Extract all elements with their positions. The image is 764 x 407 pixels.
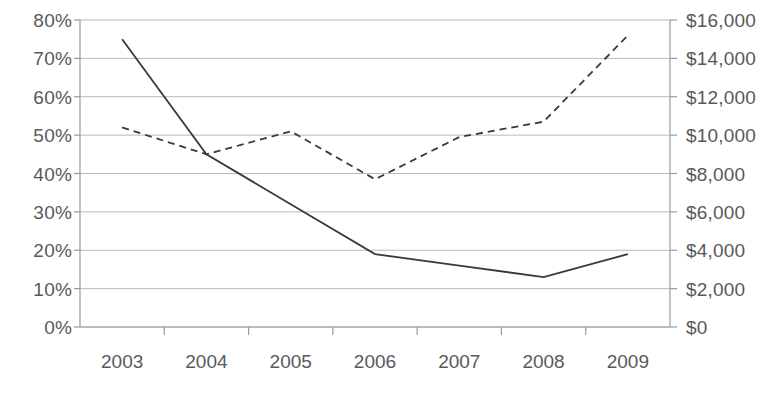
series-line-1	[122, 39, 628, 277]
left-axis	[74, 20, 80, 327]
gridlines	[80, 20, 670, 327]
series-line-2	[122, 35, 628, 179]
x-axis-tick-label: 2007	[438, 352, 480, 371]
x-axis-tick-label: 2009	[607, 352, 649, 371]
x-axis-tick-labels: 2003200420052006200720082009	[0, 352, 764, 380]
plot-area	[0, 0, 764, 407]
x-axis-tick-label: 2008	[522, 352, 564, 371]
right-axis	[670, 20, 677, 327]
x-axis-tick-label: 2003	[101, 352, 143, 371]
x-axis-tick-label: 2004	[185, 352, 227, 371]
x-axis-tick-label: 2006	[354, 352, 396, 371]
x-axis-tick-label: 2005	[270, 352, 312, 371]
chart-canvas	[0, 0, 764, 407]
line-chart: 0%10%20%30%40%50%60%70%80% $0$2,000$4,00…	[0, 0, 764, 407]
x-axis	[80, 327, 670, 335]
